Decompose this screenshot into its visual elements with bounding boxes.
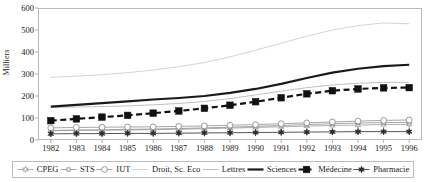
legend-swatch-icon: [60, 164, 77, 175]
x-tick-1996: 1996: [392, 143, 426, 153]
y-axis-tick-labels: 6005004003002001000: [4, 0, 34, 150]
legend-swatch-icon: [298, 164, 315, 175]
legend-label: Sciences: [267, 165, 297, 174]
legend-label: IUT: [116, 165, 130, 174]
legend-item-lettres[interactable]: Lettres: [202, 164, 246, 175]
legend-item-droit-sc-eco[interactable]: Droit, Sc. Eco: [132, 164, 200, 175]
legend-label: Droit, Sc. Eco: [152, 165, 200, 174]
legend-swatch-icon: [17, 164, 34, 175]
legend-label: CPEG: [37, 165, 59, 174]
legend-swatch-icon: [132, 164, 149, 175]
legend-item-m-decine[interactable]: Médecine: [298, 164, 352, 175]
y-tick-400: 400: [8, 48, 34, 57]
chart-legend: CPEGSTSIUTDroit, Sc. EcoLettresSciencesM…: [12, 161, 414, 178]
legend-label: Lettres: [222, 165, 246, 174]
legend-swatch-icon: [353, 164, 370, 175]
y-tick-300: 300: [8, 70, 34, 79]
legend-item-sciences[interactable]: Sciences: [247, 164, 297, 175]
x-axis-tick-labels: 1982198319841985198619871988198919901991…: [38, 143, 422, 155]
y-tick-600: 600: [8, 4, 34, 13]
legend-label: STS: [80, 165, 95, 174]
legend-label: Médecine: [318, 165, 352, 174]
y-tick-200: 200: [8, 92, 34, 101]
legend-label: Pharmacie: [373, 165, 409, 174]
plot-area: [38, 8, 422, 140]
y-tick-500: 500: [8, 26, 34, 35]
legend-swatch-icon: [96, 164, 113, 175]
y-tick-100: 100: [8, 114, 34, 123]
chart-figure: Milliers 6005004003002001000 19821983198…: [0, 0, 426, 182]
legend-swatch-icon: [202, 164, 219, 175]
legend-item-sts[interactable]: STS: [60, 164, 95, 175]
legend-swatch-icon: [247, 164, 264, 175]
legend-item-cpeg[interactable]: CPEG: [17, 164, 59, 175]
legend-item-pharmacie[interactable]: Pharmacie: [353, 164, 409, 175]
y-tick-0: 0: [8, 136, 34, 145]
legend-item-iut[interactable]: IUT: [96, 164, 130, 175]
